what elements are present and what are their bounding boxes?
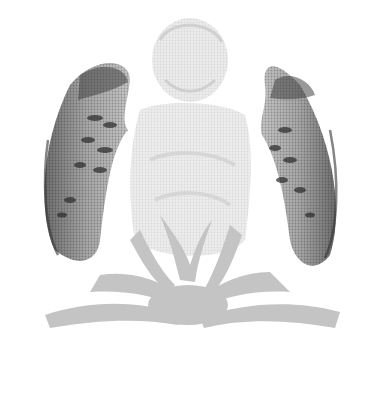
- angel-head: [152, 18, 228, 102]
- rays-halftone: [40, 210, 340, 340]
- angel-illustration: [0, 0, 374, 393]
